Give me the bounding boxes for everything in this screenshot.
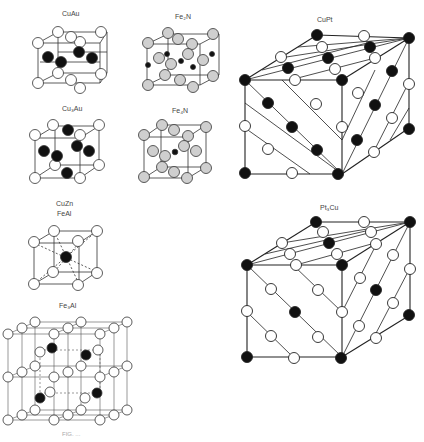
pt3cu-atoms	[242, 217, 416, 364]
fe3al-atoms	[3, 317, 132, 425]
cuau-atoms	[33, 27, 107, 94]
fe4n-atoms	[139, 120, 212, 184]
cupt-atoms	[240, 30, 415, 180]
crystal-structures-figure	[0, 0, 424, 442]
fe2n-atoms	[143, 28, 219, 93]
